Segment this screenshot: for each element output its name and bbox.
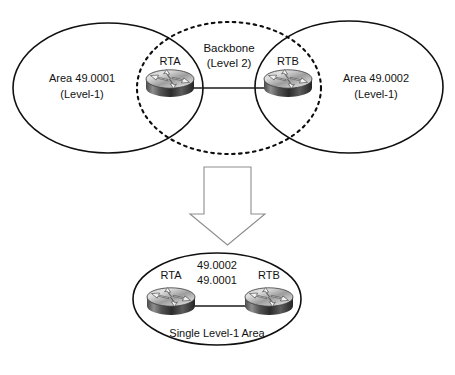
right-area-label-line2: (Level-1): [354, 88, 397, 100]
router-icon-rtb-bottom: [245, 288, 293, 315]
down-block-arrow-icon: [190, 167, 265, 245]
bottom-router-rtb-label: RTB: [258, 269, 280, 281]
top-router-rta-label: RTA: [160, 55, 182, 67]
bottom-router-rta-label: RTA: [161, 269, 183, 281]
isis-area-diagram: Area 49.0001 (Level-1) Area 49.0002 (Lev…: [0, 0, 455, 375]
left-area-label-line1: Area 49.0001: [49, 72, 115, 84]
left-area-label-line2: (Level-1): [60, 88, 103, 100]
backbone-label-line1: Backbone: [203, 42, 254, 54]
top-router-rtb-label: RTB: [277, 55, 299, 67]
bottom-address-2: 49.0001: [197, 274, 237, 286]
bottom-caption: Single Level-1 Area: [169, 327, 265, 339]
diagram-canvas: Area 49.0001 (Level-1) Area 49.0002 (Lev…: [0, 0, 455, 375]
right-area-label-line1: Area 49.0002: [343, 72, 409, 84]
backbone-label-line2: (Level 2): [207, 57, 252, 69]
router-icon-rtb-top: [264, 70, 312, 97]
router-icon-rta-bottom: [147, 288, 195, 315]
router-icon-rta-top: [146, 70, 194, 97]
bottom-address-1: 49.0002: [197, 259, 237, 271]
